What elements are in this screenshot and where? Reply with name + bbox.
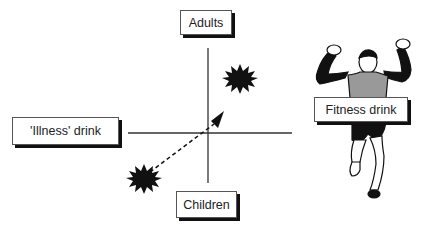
axis-label-children: Children: [176, 191, 237, 218]
dashed-arrow: [150, 124, 214, 172]
starburst-icon-target: [222, 64, 258, 94]
axis-label-adults: Adults: [180, 10, 232, 35]
axis-label-illness-drink: 'Illness' drink: [12, 117, 119, 145]
starburst-icon-current: [126, 164, 162, 194]
positioning-map: Adults 'Illness' drink Children Fitness …: [0, 0, 429, 229]
axis-label-fitness-drink: Fitness drink: [314, 97, 408, 122]
